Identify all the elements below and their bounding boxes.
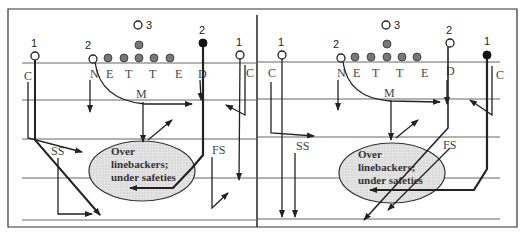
- number-label: 2: [446, 24, 452, 36]
- number-label: 3: [394, 19, 400, 31]
- label-e: E: [106, 67, 113, 81]
- label-ss: SS: [296, 139, 309, 153]
- label-c: C: [268, 66, 276, 80]
- receiver-2-right-panel: [337, 54, 345, 62]
- offensive-line: [104, 41, 174, 62]
- number-label: 1: [236, 36, 242, 48]
- play-diagram: 1 2 3 2 1 C N E T T E D M C SS FS Over l…: [0, 0, 521, 235]
- zone-text: Over: [358, 148, 382, 160]
- receiver-1-right-left: [236, 51, 244, 59]
- left-panel: 1 2 3 2 1 C N E T T E D M C SS FS Over l…: [22, 19, 257, 220]
- number-label: 1: [31, 37, 37, 49]
- label-c: C: [246, 66, 254, 80]
- label-c: C: [496, 68, 504, 82]
- number-label: 3: [146, 19, 152, 31]
- receiver-2b-right-panel: [446, 39, 454, 47]
- offensive-line: [351, 40, 421, 61]
- receiver-1-right-panel: [278, 51, 286, 59]
- number-label: 1: [278, 36, 284, 48]
- label-m: M: [384, 86, 395, 100]
- number-label: 2: [333, 38, 339, 50]
- receiver-1-filled-right-panel: [483, 51, 491, 59]
- coverage-zone: [339, 143, 445, 203]
- receiver-2-filled-left: [199, 39, 207, 47]
- zone-text: Over: [111, 145, 135, 157]
- number-label: 2: [85, 39, 91, 51]
- label-t: T: [396, 66, 404, 80]
- right-panel: 1 2 3 2 1 C N E T T E D M C SS FS Over l…: [257, 19, 504, 220]
- label-fs: FS: [212, 143, 225, 157]
- label-c: C: [24, 69, 32, 83]
- number-label: 1: [484, 35, 490, 47]
- receiver-2-left: [89, 55, 97, 63]
- label-e: E: [353, 66, 360, 80]
- label-fs: FS: [443, 138, 456, 152]
- label-t: T: [125, 67, 133, 81]
- receiver-3-left: [134, 21, 142, 29]
- zone-text: linebackers;: [111, 158, 168, 170]
- zone-text: linebackers;: [358, 161, 415, 173]
- label-m: M: [136, 87, 147, 101]
- receiver-1-left: [31, 52, 39, 60]
- label-e: E: [421, 66, 428, 80]
- label-e: E: [175, 67, 182, 81]
- number-label: 2: [199, 24, 205, 36]
- zone-text: under safeties: [111, 171, 177, 183]
- label-t: T: [372, 66, 380, 80]
- label-t: T: [149, 67, 157, 81]
- receiver-3-right-panel: [382, 21, 390, 29]
